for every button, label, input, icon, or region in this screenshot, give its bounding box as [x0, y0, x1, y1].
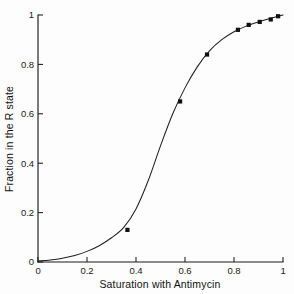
x-tick-label: 0.6 — [179, 265, 192, 276]
x-tick-label: 0.2 — [81, 265, 94, 276]
fitted-curve-group — [38, 15, 283, 261]
data-point-marker — [125, 228, 129, 232]
data-point-marker — [178, 99, 182, 103]
y-tick-labels: 00.20.40.60.81 — [21, 9, 34, 267]
x-tick-label: 1 — [280, 265, 285, 276]
fitted-curve — [38, 15, 283, 261]
y-tick-label: 0.8 — [21, 59, 34, 70]
data-point-marker — [276, 14, 280, 18]
y-tick-label: 0 — [29, 256, 34, 267]
sigmoid-scatter-plot: 00.20.40.60.81 00.20.40.60.81 Saturation… — [0, 0, 294, 294]
data-point-marker — [258, 20, 262, 24]
data-point-marker — [269, 17, 273, 21]
y-tick-label: 0.6 — [21, 108, 34, 119]
y-tick-label: 1 — [29, 9, 34, 20]
x-axis-title: Saturation with Antimycin — [99, 278, 220, 290]
data-point-marker — [236, 28, 240, 32]
x-tick-label: 0.4 — [130, 265, 143, 276]
x-tick-labels: 00.20.40.60.81 — [35, 265, 285, 276]
chart-figure: 00.20.40.60.81 00.20.40.60.81 Saturation… — [0, 0, 294, 294]
data-points-group — [125, 14, 280, 232]
axes-group — [38, 15, 283, 262]
y-tick-label: 0.2 — [21, 207, 34, 218]
x-tick-label: 0.8 — [228, 265, 241, 276]
y-tick-marks — [38, 15, 43, 262]
x-tick-label: 0 — [35, 265, 40, 276]
y-tick-label: 0.4 — [21, 158, 34, 169]
y-axis-title: Fraction in the R state — [3, 86, 15, 192]
data-point-marker — [247, 23, 251, 27]
data-point-marker — [205, 52, 209, 56]
x-tick-marks — [38, 257, 283, 262]
